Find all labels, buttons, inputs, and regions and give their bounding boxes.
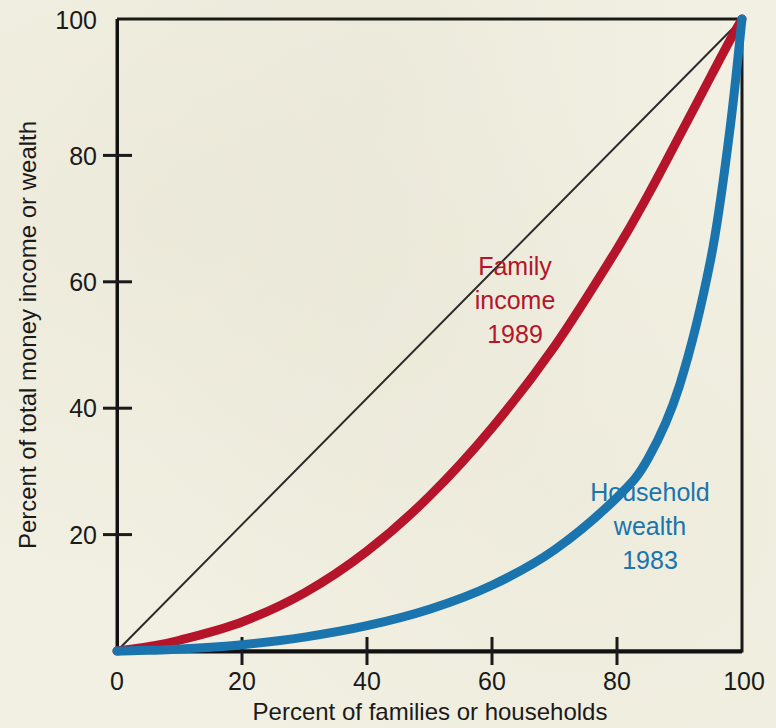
y-axis-tick-labels: 100 80 60 40 20 bbox=[55, 6, 97, 549]
household-wealth-label-line1: Household bbox=[590, 478, 710, 506]
family-income-label-line2: income bbox=[475, 286, 556, 314]
household-wealth-label-line2: wealth bbox=[613, 512, 686, 540]
y-axis-title: Percent of total money income or wealth bbox=[14, 121, 41, 549]
y-tick-label-40: 40 bbox=[69, 394, 97, 422]
x-tick-label-20: 20 bbox=[228, 667, 256, 695]
y-tick-label-80: 80 bbox=[69, 142, 97, 170]
x-tick-label-0: 0 bbox=[110, 667, 124, 695]
x-axis-tick-labels: 0 20 40 60 80 100 bbox=[110, 667, 765, 695]
family-income-label-line3: 1989 bbox=[487, 320, 543, 348]
lorenz-curve-chart: 100 80 60 40 20 0 20 40 60 80 100 Percen… bbox=[0, 0, 776, 728]
x-tick-label-40: 40 bbox=[353, 667, 381, 695]
family-income-label-line1: Family bbox=[478, 252, 552, 280]
household-wealth-annotation: Household wealth 1983 bbox=[590, 478, 710, 574]
x-tick-label-60: 60 bbox=[478, 667, 506, 695]
chart-page: 100 80 60 40 20 0 20 40 60 80 100 Percen… bbox=[0, 0, 776, 728]
x-tick-label-100: 100 bbox=[723, 667, 765, 695]
x-tick-label-80: 80 bbox=[603, 667, 631, 695]
family-income-annotation: Family income 1989 bbox=[475, 252, 556, 348]
y-tick-label-20: 20 bbox=[69, 521, 97, 549]
x-axis-title: Percent of families or households bbox=[253, 698, 608, 725]
household-wealth-label-line3: 1983 bbox=[622, 546, 678, 574]
y-tick-label-60: 60 bbox=[69, 268, 97, 296]
y-tick-label-100: 100 bbox=[55, 6, 97, 34]
